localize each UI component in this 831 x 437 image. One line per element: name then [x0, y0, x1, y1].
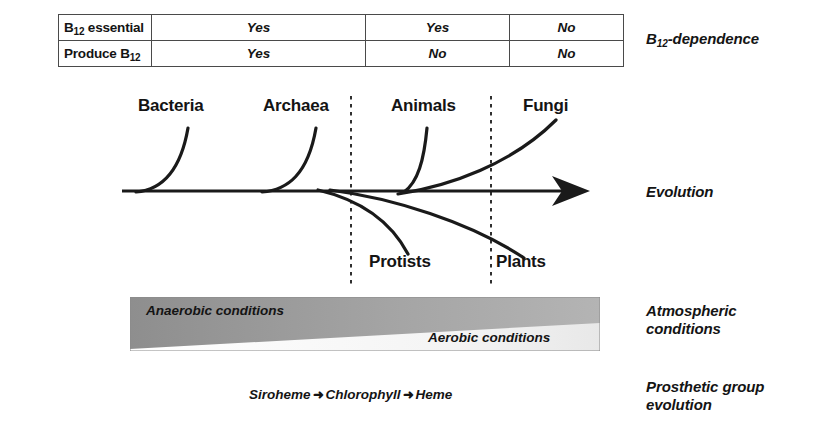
branch-animals: [404, 128, 427, 192]
side-label-b12-dependence: B12-dependence: [646, 30, 759, 48]
prosthetic-item-chlorophyll: Chlorophyll: [326, 387, 401, 402]
band-label-aerobic: Aerobic conditions: [428, 330, 550, 345]
table-row: Produce B12 Yes No No: [59, 41, 624, 67]
prosthetic-item-heme: Heme: [416, 387, 453, 402]
side-label-prosthetic-line1: Prosthetic group: [646, 378, 764, 396]
prosthetic-item-siroheme: Siroheme: [249, 387, 311, 402]
table-row: B12 essential Yes Yes No: [59, 15, 624, 41]
prosthetic-group-chain: Siroheme➜Chlorophyll➜Heme: [249, 387, 452, 402]
row-header-produce-b12: Produce B12: [59, 41, 152, 67]
side-label-atmospheric-line2: conditions: [646, 320, 737, 338]
branch-plants: [330, 190, 524, 258]
cell-b12-essential-col3: No: [510, 15, 624, 41]
taxon-label-plants: Plants: [496, 252, 546, 272]
taxon-label-fungi: Fungi: [523, 96, 568, 116]
figure-root: B12 essential Yes Yes No Produce B12 Yes…: [0, 0, 831, 437]
side-label-prosthetic-line2: evolution: [646, 396, 764, 414]
taxon-label-archaea: Archaea: [263, 96, 329, 116]
side-label-evolution: Evolution: [646, 183, 713, 201]
taxon-label-animals: Animals: [391, 96, 456, 116]
b12-dependence-table: B12 essential Yes Yes No Produce B12 Yes…: [58, 14, 624, 67]
cell-b12-essential-col1: Yes: [152, 15, 366, 41]
side-label-atmospheric-conditions: Atmospheric conditions: [646, 302, 737, 337]
row-header-b12-essential: B12 essential: [59, 15, 152, 41]
taxon-label-bacteria: Bacteria: [138, 96, 204, 116]
side-label-prosthetic-group-evolution: Prosthetic group evolution: [646, 378, 764, 413]
branch-protists: [318, 190, 408, 254]
cell-produce-b12-col2: No: [366, 41, 510, 67]
branch-bacteria: [136, 128, 188, 192]
cell-b12-essential-col2: Yes: [366, 15, 510, 41]
cell-produce-b12-col3: No: [510, 41, 624, 67]
taxon-label-protists: Protists: [369, 252, 431, 272]
band-label-anaerobic: Anaerobic conditions: [146, 303, 284, 318]
cell-produce-b12-col1: Yes: [152, 41, 366, 67]
arrow-icon: ➜: [311, 387, 326, 402]
arrow-icon: ➜: [401, 387, 416, 402]
branch-archaea: [262, 128, 316, 192]
side-label-atmospheric-line1: Atmospheric: [646, 302, 737, 320]
